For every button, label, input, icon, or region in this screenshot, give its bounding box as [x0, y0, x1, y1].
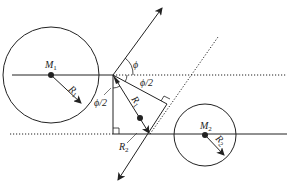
label-r1-circle: R1 — [65, 82, 82, 99]
label-phi: ϕ — [133, 59, 138, 70]
phi-angle-arc — [125, 58, 133, 75]
mass-dot — [137, 115, 143, 121]
label-m1: M1 — [44, 59, 57, 72]
geometry-diagram: M1 R1 ϕ ϕ/2 ϕ/2 R1 R2 M2 R2 — [0, 0, 298, 187]
phi-half-arc-left — [113, 86, 120, 88]
phi-half-arc-right — [125, 75, 127, 82]
label-phi-half-right: ϕ/2 — [140, 77, 153, 88]
right-angle-marker-bottom — [113, 128, 119, 134]
label-phi-half-left: ϕ/2 — [94, 97, 107, 108]
downward-ray-arrow — [118, 104, 167, 180]
phi-half-left-pointer — [104, 88, 111, 95]
label-m2: M2 — [199, 120, 212, 133]
right-angle-marker-upper — [161, 96, 170, 101]
